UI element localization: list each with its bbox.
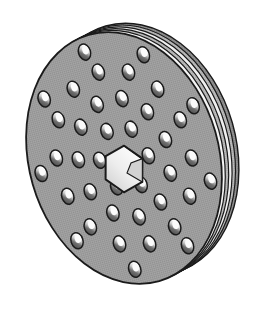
perforated-disc-illustration — [0, 0, 261, 311]
figure-container: Perforated Disc Line-art technical illus… — [0, 0, 261, 311]
